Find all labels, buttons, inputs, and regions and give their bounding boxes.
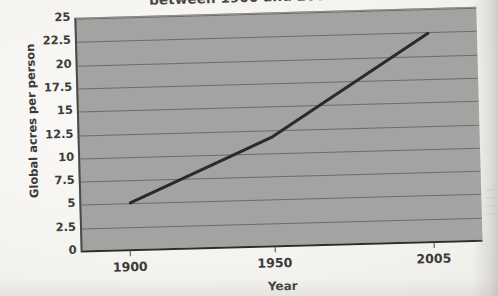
y-axis-tick-label: 25: [24, 12, 70, 25]
x-axis-tick-label: 1950: [240, 254, 310, 271]
x-axis-tickmark: [274, 245, 275, 252]
x-axis-tick-label: 1900: [95, 258, 165, 275]
x-axis-tickmark: [433, 241, 434, 248]
y-axis-tick-label: 17.5: [26, 82, 72, 95]
page-edge-artifact: [486, 189, 498, 251]
y-axis-tick-label: 15: [27, 105, 73, 118]
y-axis-tick-label: 2.5: [30, 221, 76, 234]
x-axis-tickmark: [130, 249, 131, 256]
y-axis-tick-label: 12.5: [27, 128, 73, 141]
y-axis-tick-label: 5: [29, 198, 75, 211]
y-axis-tick-label: 7.5: [29, 175, 75, 188]
x-axis-tick-label: 2005: [399, 250, 469, 267]
chart-figure: between 1900 and 2005 Global acres per p…: [0, 0, 498, 296]
y-axis-tick-label: 10: [28, 152, 74, 165]
plot-area: [74, 7, 482, 251]
chart-title: between 1900 and 2005: [92, 0, 392, 9]
y-axis-tick-labels: 2522.52017.51512.5107.552.50: [18, 18, 76, 252]
y-axis-tick-label: 22.5: [25, 35, 71, 48]
data-series-line: [76, 8, 482, 251]
y-axis-tick-label: 20: [25, 58, 71, 71]
y-axis-tick-label: 0: [31, 245, 77, 258]
